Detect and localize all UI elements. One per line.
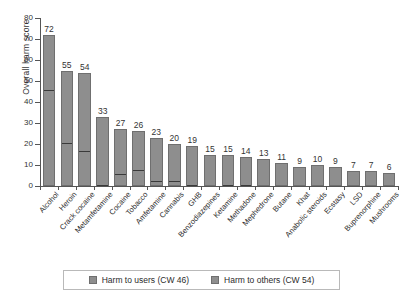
bar: [383, 173, 396, 186]
bar-segment-divider: [97, 185, 108, 186]
x-axis-tick: [398, 186, 399, 190]
x-axis-tick: [130, 186, 131, 190]
chart-legend: Harm to users (CW 46) Harm to others (CW…: [63, 270, 340, 290]
bar: [204, 155, 217, 187]
y-axis-tick: [35, 81, 40, 82]
y-axis-tick-label: 80: [14, 13, 33, 22]
bar-value-label: 33: [91, 106, 115, 116]
bar-segment-divider: [62, 143, 73, 144]
bar: [96, 117, 109, 186]
bar: [186, 146, 199, 186]
x-axis-tick: [94, 186, 95, 190]
y-axis-tick: [35, 102, 40, 103]
legend-item-harm-to-users: Harm to users (CW 46): [89, 275, 189, 285]
bar-segment-divider: [44, 90, 55, 91]
x-axis-tick: [76, 186, 77, 190]
bar: [257, 159, 270, 186]
bar-segment-divider: [79, 151, 90, 152]
x-axis-tick: [380, 186, 381, 190]
bar: [293, 167, 306, 186]
y-axis-tick: [35, 165, 40, 166]
y-axis-tick-label: 40: [14, 97, 33, 106]
bar: [168, 144, 181, 186]
x-axis-tick: [183, 186, 184, 190]
bar: [78, 73, 91, 186]
x-axis-tick: [273, 186, 274, 190]
x-axis-tick: [58, 186, 59, 190]
x-axis-tick: [326, 186, 327, 190]
bar: [347, 171, 360, 186]
bar-segment-divider: [115, 174, 126, 175]
bar-value-label: 6: [377, 162, 401, 172]
y-axis-tick: [35, 60, 40, 61]
bar: [150, 138, 163, 186]
x-axis-tick: [40, 186, 41, 190]
x-axis-tick: [112, 186, 113, 190]
y-axis-tick: [35, 39, 40, 40]
bar: [114, 129, 127, 186]
y-axis-tick-label: 30: [14, 118, 33, 127]
x-axis-tick: [147, 186, 148, 190]
bar-segment-divider: [223, 185, 234, 186]
legend-label-harm-to-users: Harm to users (CW 46): [102, 275, 189, 285]
bar: [365, 171, 378, 186]
x-axis-tick: [344, 186, 345, 190]
x-axis-tick: [201, 186, 202, 190]
y-axis-tick-label: 60: [14, 55, 33, 64]
bar: [240, 157, 253, 186]
bar: [132, 131, 145, 186]
legend-item-harm-to-others: Harm to others (CW 54): [211, 275, 314, 285]
bar: [329, 167, 342, 186]
bar: [222, 155, 235, 187]
y-axis-tick: [35, 144, 40, 145]
bar-segment-divider: [133, 170, 144, 171]
x-axis-tick: [255, 186, 256, 190]
y-axis-tick-label: 20: [14, 139, 33, 148]
y-axis-tick-label: 50: [14, 76, 33, 85]
legend-label-harm-to-others: Harm to others (CW 54): [224, 275, 314, 285]
x-axis-tick: [309, 186, 310, 190]
bar: [61, 71, 74, 187]
bar-segment-divider: [169, 181, 180, 182]
bar-value-label: 54: [73, 62, 97, 72]
bar-segment-divider: [241, 185, 252, 186]
y-axis-tick: [35, 18, 40, 19]
bar: [275, 163, 288, 186]
x-axis-tick: [165, 186, 166, 190]
bar: [43, 35, 56, 186]
bar-value-label: 72: [37, 24, 61, 34]
chart-root: Overall harm score 01020304050607080 725…: [0, 0, 402, 302]
x-axis-tick: [237, 186, 238, 190]
y-axis-tick-label: 70: [14, 34, 33, 43]
bar: [311, 165, 324, 186]
y-axis-tick-label: 0: [14, 181, 33, 190]
x-axis-tick: [219, 186, 220, 190]
x-axis-tick: [291, 186, 292, 190]
legend-swatch-icon: [89, 276, 97, 284]
y-axis-tick: [35, 123, 40, 124]
legend-swatch-icon: [211, 276, 219, 284]
bar-segment-divider: [151, 181, 162, 182]
x-axis-tick: [362, 186, 363, 190]
bar-segment-divider: [187, 185, 198, 186]
y-axis-tick-label: 10: [14, 160, 33, 169]
